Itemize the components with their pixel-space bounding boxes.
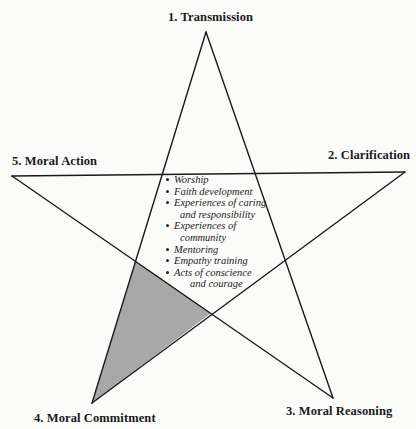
list-item: Mentoring bbox=[164, 244, 266, 256]
vertex-label-clarification: 2. Clarification bbox=[328, 148, 410, 163]
bullet-icon bbox=[166, 201, 169, 204]
list-item-text: Empathy training bbox=[174, 255, 248, 266]
list-item-text: Experiences of bbox=[174, 220, 236, 231]
vertex-label-moral-commitment: 4. Moral Commitment bbox=[34, 411, 156, 426]
vertex-label-moral-reasoning: 3. Moral Reasoning bbox=[286, 404, 392, 419]
list-item: Faith development bbox=[164, 186, 266, 198]
bullet-icon bbox=[166, 271, 169, 274]
list-item-text-continued: community bbox=[174, 232, 266, 244]
list-item-text: Faith development bbox=[174, 186, 252, 197]
vertex-label-moral-action: 5. Moral Action bbox=[12, 154, 97, 169]
bullet-icon bbox=[166, 190, 169, 193]
vertex-label-transmission: 1. Transmission bbox=[168, 10, 253, 25]
list-item-text: Mentoring bbox=[174, 244, 218, 255]
bullet-icon bbox=[166, 224, 169, 227]
bullet-icon bbox=[166, 248, 169, 251]
list-item: Experiences of caring and responsibility bbox=[164, 197, 266, 220]
practices-list: Worship Faith development Experiences of… bbox=[164, 174, 266, 290]
list-item: Empathy training bbox=[164, 255, 266, 267]
list-item-text: Experiences of caring bbox=[174, 197, 266, 208]
list-item: Experiences of community bbox=[164, 220, 266, 243]
list-item-text-continued: and responsibility bbox=[174, 209, 266, 221]
bullet-icon bbox=[166, 259, 169, 262]
list-item-text: Worship bbox=[174, 174, 209, 185]
list-item: Acts of conscience and courage bbox=[164, 267, 266, 290]
list-item-text-continued: and courage bbox=[174, 278, 266, 290]
list-item-text: Acts of conscience bbox=[174, 267, 252, 278]
list-item: Worship bbox=[164, 174, 266, 186]
bullet-icon bbox=[166, 178, 169, 181]
